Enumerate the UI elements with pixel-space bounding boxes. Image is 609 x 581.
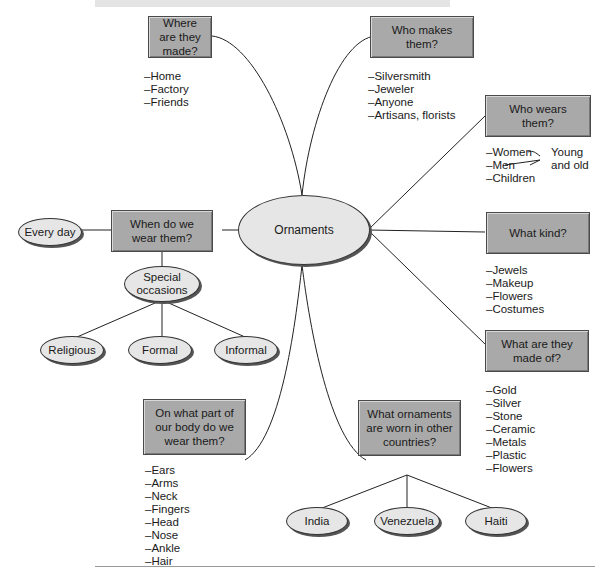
made-of-list: Gold Silver Stone Ceramic Metals Plastic…: [486, 384, 535, 475]
ellipse-religious: Religious: [40, 336, 104, 364]
node-made-of: What are they made of?: [485, 330, 589, 372]
center-ornaments: Ornaments: [238, 195, 370, 265]
body-part-list: Ears Arms Neck Fingers Head Nose Ankle H…: [145, 464, 190, 568]
what-kind-list: Jewels Makeup Flowers Costumes: [486, 264, 544, 316]
who-wears-list: Women Men Children: [486, 146, 535, 185]
ellipse-special-occasions: Special occasions: [124, 266, 200, 302]
node-other-countries: What ornaments are worn in other countri…: [358, 400, 461, 456]
node-who-wears: Who wears them?: [485, 95, 591, 137]
who-makes-list: Silversmith Jeweler Anyone Artisans, flo…: [368, 70, 456, 122]
node-where-made: Where are they made?: [148, 16, 212, 58]
ellipse-formal: Formal: [128, 336, 192, 364]
node-body-part: On what part of our body do we wear them…: [143, 399, 246, 455]
node-who-makes: Who makes them?: [370, 16, 474, 58]
bottom-divider: [95, 566, 595, 567]
node-when: When do we wear them?: [111, 210, 213, 252]
center-label: Ornaments: [274, 224, 333, 237]
ellipse-india: India: [286, 507, 348, 535]
ellipse-haiti: Haiti: [465, 507, 527, 535]
node-what-kind: What kind?: [486, 212, 590, 254]
where-list: Home Factory Friends: [144, 70, 189, 109]
ellipse-every-day: Every day: [18, 218, 82, 246]
ellipse-informal: Informal: [214, 336, 278, 364]
ellipse-venezuela: Venezuela: [374, 507, 440, 535]
young-and-old-note: Young and old: [551, 146, 591, 172]
